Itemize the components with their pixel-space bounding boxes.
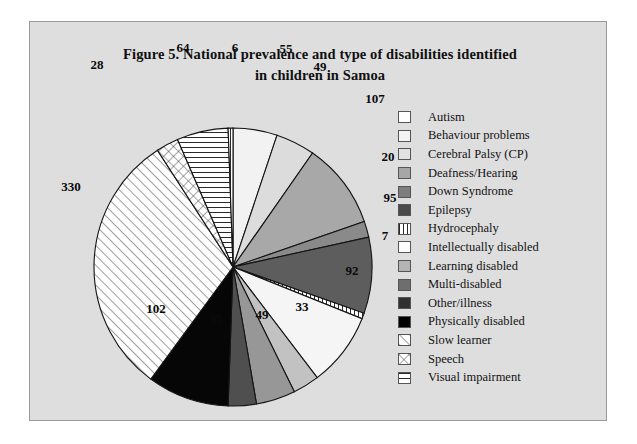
- pie-value-label: 95: [384, 190, 397, 206]
- pie-value-label: 6: [232, 40, 239, 56]
- pie-value-label: 92: [346, 263, 359, 279]
- pie-value-label: 102: [146, 301, 166, 317]
- legend-item[interactable]: Cerebral Palsy (CP): [398, 145, 588, 164]
- legend-item-label: Multi-disabled: [428, 277, 502, 292]
- legend-item-label: Deafness/Hearing: [428, 166, 518, 181]
- legend-item-label: Learning disabled: [428, 259, 518, 274]
- legend-swatch-icon: [398, 372, 411, 384]
- pie-value-label: 35: [210, 311, 223, 327]
- pie-value-label: 107: [365, 91, 385, 107]
- legend-item[interactable]: Intellectually disabled: [398, 238, 588, 257]
- chart-legend: AutismBehaviour problemsCerebral Palsy (…: [398, 108, 588, 387]
- figure-container: Figure 5. National prevalence and type o…: [29, 21, 607, 421]
- legend-item-label: Down Syndrome: [428, 184, 513, 199]
- legend-item-label: Intellectually disabled: [428, 240, 539, 255]
- legend-swatch-icon: [398, 279, 411, 291]
- legend-swatch-icon: [398, 111, 411, 123]
- legend-item-label: Physically disabled: [428, 314, 525, 329]
- pie-value-label: 49: [256, 307, 269, 323]
- legend-item[interactable]: Other/illness: [398, 294, 588, 313]
- pie-value-label: 20: [382, 149, 395, 165]
- legend-item-label: Speech: [428, 352, 464, 367]
- legend-item[interactable]: Down Syndrome: [398, 182, 588, 201]
- legend-swatch-icon: [398, 130, 411, 142]
- pie-value-label: 7: [382, 228, 389, 244]
- legend-swatch-icon: [398, 353, 411, 365]
- pie-value-label: 64: [177, 40, 190, 56]
- legend-item[interactable]: Speech: [398, 350, 588, 369]
- legend-item-label: Visual impairment: [428, 370, 521, 385]
- legend-item[interactable]: Deafness/Hearing: [398, 164, 588, 183]
- legend-swatch-icon: [398, 297, 411, 309]
- legend-item[interactable]: Learning disabled: [398, 257, 588, 276]
- pie-value-label: 55: [280, 41, 293, 57]
- legend-item-label: Behaviour problems: [428, 128, 530, 143]
- legend-item-label: Other/illness: [428, 296, 492, 311]
- legend-item[interactable]: Behaviour problems: [398, 127, 588, 146]
- pie-value-label: 330: [61, 179, 81, 195]
- legend-swatch-icon: [398, 316, 411, 328]
- pie-value-label: 33: [296, 299, 309, 315]
- legend-item-label: Hydrocephaly: [428, 221, 499, 236]
- legend-swatch-icon: [398, 260, 411, 272]
- legend-item[interactable]: Slow learner: [398, 331, 588, 350]
- legend-item[interactable]: Visual impairment: [398, 368, 588, 387]
- legend-item[interactable]: Autism: [398, 108, 588, 127]
- legend-item[interactable]: Multi-disabled: [398, 275, 588, 294]
- legend-item-label: Epilepsy: [428, 203, 472, 218]
- legend-swatch-icon: [398, 167, 411, 179]
- pie-slices: [94, 128, 372, 406]
- legend-item[interactable]: Epilepsy: [398, 201, 588, 220]
- legend-swatch-icon: [398, 334, 411, 346]
- legend-item[interactable]: Physically disabled: [398, 313, 588, 332]
- legend-item-label: Autism: [428, 110, 465, 125]
- legend-item[interactable]: Hydrocephaly: [398, 220, 588, 239]
- pie-value-label: 28: [91, 57, 104, 73]
- legend-swatch-icon: [398, 204, 411, 216]
- pie-value-label: 49: [314, 59, 327, 75]
- legend-swatch-icon: [398, 223, 411, 235]
- legend-swatch-icon: [398, 186, 411, 198]
- legend-swatch-icon: [398, 241, 411, 253]
- legend-item-label: Slow learner: [428, 333, 492, 348]
- legend-swatch-icon: [398, 148, 411, 160]
- legend-item-label: Cerebral Palsy (CP): [428, 147, 528, 162]
